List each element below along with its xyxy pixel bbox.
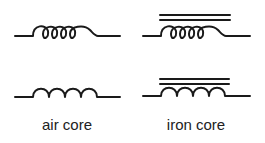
air-core-inductor-looped (15, 26, 120, 38)
iron-core-label: iron core (146, 116, 246, 134)
air-core-inductor-arcs (15, 89, 120, 97)
iron-core-inductor-looped (143, 15, 250, 38)
air-core-label: air core (17, 116, 117, 134)
iron-core-inductor-arcs (143, 79, 250, 96)
